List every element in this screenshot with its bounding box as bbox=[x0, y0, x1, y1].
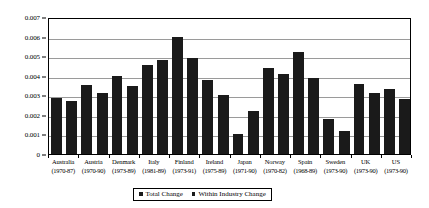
y-axis-tick-mark bbox=[42, 115, 46, 116]
x-axis-labels: Australia(1970-87)Austria(1970-90)Denmar… bbox=[48, 158, 411, 182]
y-axis-tick-label: 0.001 bbox=[25, 132, 40, 139]
bar-group bbox=[291, 19, 321, 154]
bar-within-industry-change bbox=[248, 111, 259, 154]
bar-group bbox=[110, 19, 140, 154]
legend-label: Total Change bbox=[146, 190, 183, 198]
bar-total-change bbox=[112, 76, 123, 154]
bars-layer bbox=[49, 19, 410, 154]
y-axis-tick-mark bbox=[42, 76, 46, 77]
bar-within-industry-change bbox=[66, 101, 77, 154]
y-axis-tick-label: 0.002 bbox=[25, 112, 40, 119]
bar-group bbox=[170, 19, 200, 154]
bar-group bbox=[49, 19, 79, 154]
y-axis-tick-mark bbox=[42, 37, 46, 38]
category-period: (1973-90) bbox=[372, 167, 419, 176]
bar-within-industry-change bbox=[187, 58, 198, 154]
chart-legend: Total ChangeWithin Industry Change bbox=[133, 188, 272, 201]
bar-group bbox=[382, 19, 412, 154]
bar-total-change bbox=[172, 37, 183, 154]
legend-label: Within Industry Change bbox=[198, 190, 265, 198]
bar-within-industry-change bbox=[157, 60, 168, 154]
y-axis-tick-mark bbox=[42, 57, 46, 58]
bar-chart: 00.0010.0020.0030.0040.0050.0060.007 Aus… bbox=[0, 0, 429, 208]
legend-swatch-icon bbox=[192, 192, 196, 196]
bar-group bbox=[200, 19, 230, 154]
bar-total-change bbox=[51, 98, 62, 154]
bar-within-industry-change bbox=[127, 86, 138, 155]
bar-total-change bbox=[354, 84, 365, 154]
x-axis-category-label: US(1973-90) bbox=[372, 158, 419, 175]
bar-within-industry-change bbox=[97, 93, 108, 154]
bar-total-change bbox=[323, 119, 334, 154]
bar-total-change bbox=[81, 85, 92, 154]
y-axis-tick-mark bbox=[42, 135, 46, 136]
bar-within-industry-change bbox=[308, 78, 319, 154]
bar-total-change bbox=[263, 68, 274, 154]
plot-area bbox=[48, 18, 411, 155]
legend-swatch-icon bbox=[139, 192, 143, 196]
category-name: US bbox=[372, 158, 419, 167]
legend-entry: Within Industry Change bbox=[192, 190, 266, 198]
bar-total-change bbox=[142, 65, 153, 154]
bar-within-industry-change bbox=[218, 95, 229, 154]
bar-total-change bbox=[233, 134, 244, 154]
y-axis-tick-label: 0.005 bbox=[25, 54, 40, 61]
bar-group bbox=[231, 19, 261, 154]
bar-group bbox=[321, 19, 351, 154]
y-axis-tick-mark bbox=[42, 96, 46, 97]
y-axis-tick-mark bbox=[42, 155, 46, 156]
bar-group bbox=[352, 19, 382, 154]
bar-group bbox=[79, 19, 109, 154]
bar-group bbox=[140, 19, 170, 154]
y-axis: 00.0010.0020.0030.0040.0050.0060.007 bbox=[0, 18, 46, 155]
y-axis-tick-label: 0.004 bbox=[25, 73, 40, 80]
y-axis-tick-mark bbox=[42, 18, 46, 19]
bar-within-industry-change bbox=[369, 93, 380, 154]
bar-within-industry-change bbox=[278, 74, 289, 154]
y-axis-tick-label: 0.007 bbox=[25, 15, 40, 22]
bar-within-industry-change bbox=[339, 131, 350, 154]
bar-group bbox=[261, 19, 291, 154]
bar-total-change bbox=[384, 89, 395, 154]
y-axis-tick-label: 0.006 bbox=[25, 34, 40, 41]
bar-total-change bbox=[293, 52, 304, 154]
bar-total-change bbox=[202, 80, 213, 154]
bar-within-industry-change bbox=[399, 99, 410, 154]
legend-entry: Total Change bbox=[139, 190, 183, 198]
y-axis-tick-label: 0.003 bbox=[25, 93, 40, 100]
